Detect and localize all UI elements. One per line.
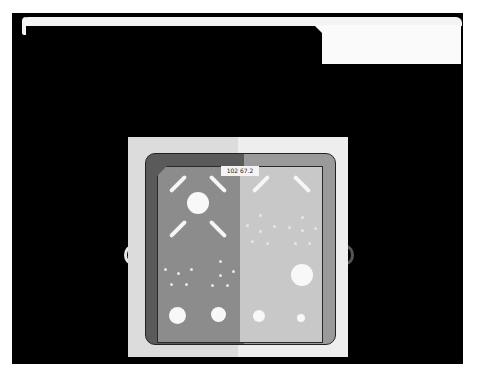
speck (308, 242, 311, 245)
test-disk (297, 314, 305, 322)
measurement-label: 102 67.2 (221, 166, 259, 176)
speck (301, 216, 304, 219)
speck (164, 268, 167, 271)
test-disk (253, 310, 265, 322)
test-disk (291, 264, 313, 286)
speck (185, 283, 188, 286)
speck (219, 260, 222, 263)
speck (251, 240, 254, 243)
speck (259, 230, 262, 233)
test-disk (211, 307, 226, 322)
speck (211, 284, 214, 287)
speck (190, 268, 193, 271)
speck (273, 225, 276, 228)
speck (314, 227, 317, 230)
speck (259, 214, 262, 217)
test-disk (187, 192, 209, 214)
speck (288, 226, 291, 229)
top-left-edge (22, 17, 26, 35)
speck (170, 283, 173, 286)
test-disk (169, 307, 186, 324)
speck (232, 270, 235, 273)
speck (246, 224, 249, 227)
top-right-block (322, 25, 461, 64)
speck (177, 272, 180, 275)
speck (294, 242, 297, 245)
speck (266, 242, 269, 245)
speck (301, 229, 304, 232)
speck (219, 274, 222, 277)
speck (226, 284, 229, 287)
